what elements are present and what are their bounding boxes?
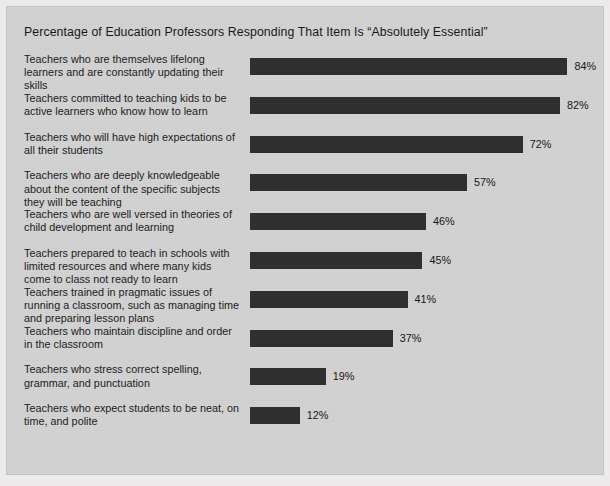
bar-row: Teachers committed to teaching kids to b… xyxy=(7,92,604,130)
bar-row: Teachers who are themselves lifelong lea… xyxy=(7,53,604,91)
chart-figure: Percentage of Education Professors Respo… xyxy=(0,0,610,486)
bar-category-label: Teachers trained in pragmatic issues of … xyxy=(24,286,240,326)
bar-category-label: Teachers who are deeply knowledgeable ab… xyxy=(24,169,240,209)
bar-track: 41% xyxy=(250,286,604,324)
bar-value-label: 19% xyxy=(333,368,355,385)
bar-fill xyxy=(250,291,408,308)
bar-row: Teachers who maintain discipline and ord… xyxy=(7,325,604,363)
bar-fill xyxy=(250,213,426,230)
bar-category-label: Teachers who stress correct spelling, gr… xyxy=(24,363,240,389)
bar-track: 72% xyxy=(250,131,604,169)
chart-title: Percentage of Education Professors Respo… xyxy=(24,25,488,39)
bar-row: Teachers who are deeply knowledgeable ab… xyxy=(7,169,604,207)
bar-fill xyxy=(250,136,523,153)
bar-category-label: Teachers who are well versed in theories… xyxy=(24,208,240,234)
bar-track: 82% xyxy=(250,92,604,130)
bar-track: 45% xyxy=(250,247,604,285)
bar-value-label: 37% xyxy=(400,330,422,347)
bar-row: Teachers prepared to teach in schools wi… xyxy=(7,247,604,285)
bar-value-label: 84% xyxy=(574,58,596,75)
bar-fill xyxy=(250,368,326,385)
bar-category-label: Teachers who are themselves lifelong lea… xyxy=(24,53,240,93)
bar-fill xyxy=(250,97,560,114)
bar-category-label: Teachers who maintain discipline and ord… xyxy=(24,325,240,351)
bar-value-label: 41% xyxy=(415,291,437,308)
bar-track: 19% xyxy=(250,363,604,401)
bar-row: Teachers who are well versed in theories… xyxy=(7,208,604,246)
bar-category-label: Teachers who expect students to be neat,… xyxy=(24,402,240,428)
bar-track: 46% xyxy=(250,208,604,246)
bar-fill xyxy=(250,407,300,424)
bar-track: 12% xyxy=(250,402,604,440)
bar-track: 37% xyxy=(250,325,604,363)
bar-category-label: Teachers prepared to teach in schools wi… xyxy=(24,247,240,287)
bar-value-label: 45% xyxy=(429,252,451,269)
bar-value-label: 72% xyxy=(530,136,552,153)
bar-fill xyxy=(250,252,422,269)
chart-panel: Percentage of Education Professors Respo… xyxy=(6,6,604,475)
bar-value-label: 46% xyxy=(433,213,455,230)
bar-row: Teachers trained in pragmatic issues of … xyxy=(7,286,604,324)
bar-row: Teachers who stress correct spelling, gr… xyxy=(7,363,604,401)
bar-track: 84% xyxy=(250,53,604,91)
bar-category-label: Teachers committed to teaching kids to b… xyxy=(24,92,240,118)
bar-value-label: 57% xyxy=(474,174,496,191)
bar-category-label: Teachers who will have high expectations… xyxy=(24,131,240,157)
bar-track: 57% xyxy=(250,169,604,207)
bar-fill xyxy=(250,58,567,75)
bar-value-label: 82% xyxy=(567,97,589,114)
bar-fill xyxy=(250,330,393,347)
bar-row: Teachers who expect students to be neat,… xyxy=(7,402,604,440)
bar-value-label: 12% xyxy=(307,407,329,424)
bar-fill xyxy=(250,174,467,191)
plot-area: Teachers who are themselves lifelong lea… xyxy=(7,51,604,471)
bar-row: Teachers who will have high expectations… xyxy=(7,131,604,169)
